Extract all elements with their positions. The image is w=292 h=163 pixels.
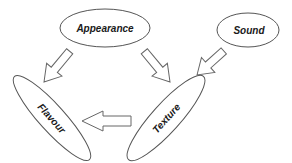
node-flavour: Flavour <box>5 68 99 163</box>
arrow-texture-to-flavour <box>82 111 131 131</box>
diagram-canvas: Appearance Sound Flavour Texture <box>0 0 292 163</box>
node-appearance: Appearance <box>60 9 150 47</box>
node-appearance-label: Appearance <box>75 23 134 34</box>
arrow-appearance-to-flavour <box>36 45 77 88</box>
node-sound-label: Sound <box>233 25 265 36</box>
node-sound: Sound <box>217 13 279 47</box>
arrow-appearance-to-texture <box>137 45 178 88</box>
node-texture: Texture <box>118 67 214 163</box>
